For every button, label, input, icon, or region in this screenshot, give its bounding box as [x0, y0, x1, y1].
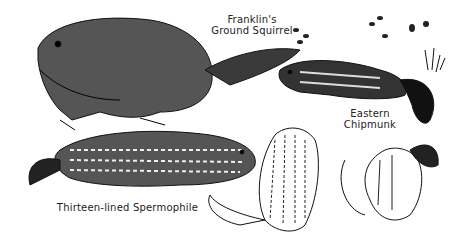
- label-thirteen-lined-spermophile: Thirteen-lined Spermophile: [55, 202, 200, 213]
- label-franklins-ground-squirrel: Franklin's Ground Squirrel: [202, 14, 302, 36]
- sitting-chipmunk-drawing: [341, 145, 438, 220]
- label-line: Eastern: [340, 108, 400, 119]
- label-line: Chipmunk: [340, 119, 400, 130]
- label-line: Ground Squirrel: [202, 25, 302, 36]
- label-eastern-chipmunk: Eastern Chipmunk: [340, 108, 400, 130]
- animal-tracks-drawing: [293, 16, 429, 44]
- thirteen-lined-spermophile-drawing: [29, 131, 255, 186]
- illustration-canvas: Franklin's Ground Squirrel Eastern Chipm…: [0, 0, 464, 248]
- label-line: Franklin's: [202, 14, 302, 25]
- grass-drawing: [425, 48, 445, 72]
